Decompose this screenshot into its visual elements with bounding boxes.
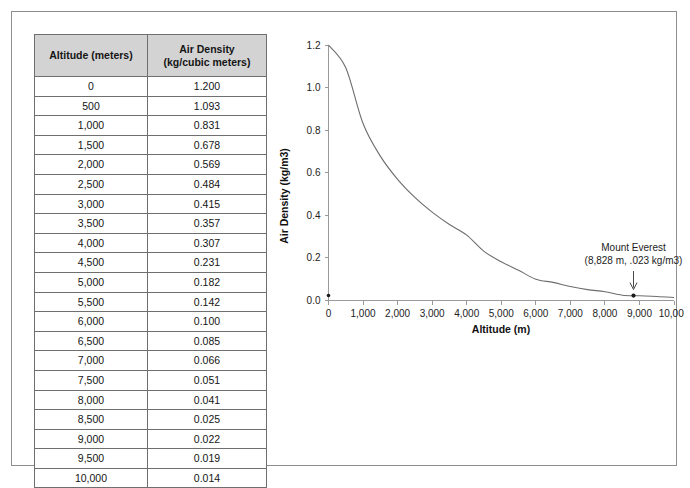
y-tick-label: 0.6 [307,167,321,178]
cell-altitude: 6,000 [35,312,148,332]
table-row: 7,5000.051 [35,370,267,390]
cell-altitude: 0 [35,77,148,97]
cell-altitude: 4,000 [35,233,148,253]
cell-air-density: 0.678 [148,135,267,155]
x-tick-label: 6,000 [523,308,548,319]
figure-frame: Altitude (meters) Air Density (kg/cubic … [11,11,677,466]
mount-everest-annotation: Mount Everest (8,828 m, .023 kg/m3) [585,242,683,298]
table-row: 6,0000.100 [35,312,267,332]
y-tick-label: 1.0 [307,82,321,93]
cell-air-density: 0.484 [148,174,267,194]
x-tick-label: 4,000 [454,308,479,319]
annotation-title: Mount Everest [601,242,666,253]
cell-altitude: 5,500 [35,292,148,312]
table-row: 10,0000.014 [35,468,267,488]
annotation-values: (8,828 m, .023 kg/m3) [585,255,683,266]
origin-marker-dot [327,294,331,298]
cell-altitude: 8,500 [35,410,148,430]
cell-air-density: 0.357 [148,214,267,234]
cell-air-density: 0.182 [148,272,267,292]
x-tick-label: 5,000 [489,308,514,319]
cell-altitude: 7,000 [35,351,148,371]
table-row: 5,5000.142 [35,292,267,312]
x-tick-label: 3,000 [420,308,445,319]
cell-air-density: 0.051 [148,370,267,390]
table-row: 4,0000.307 [35,233,267,253]
cell-altitude: 4,500 [35,253,148,273]
cell-air-density: 0.100 [148,312,267,332]
cell-altitude: 500 [35,96,148,116]
y-tick-label: 0.0 [307,295,321,306]
table-header: Altitude (meters) Air Density (kg/cubic … [35,35,267,77]
cell-air-density: 0.041 [148,390,267,410]
x-tick-label: 8,000 [592,308,617,319]
table-row: 5001.093 [35,96,267,116]
table-header-row: Altitude (meters) Air Density (kg/cubic … [35,35,267,77]
x-tick-label: 1,000 [351,308,376,319]
x-tick-label: 9,000 [627,308,652,319]
y-tick-label: 0.8 [307,125,321,136]
column-header-altitude: Altitude (meters) [35,35,148,77]
table-row: 9,5000.019 [35,449,267,469]
cell-air-density: 0.025 [148,410,267,430]
x-tick-label: 10,000 [659,308,684,319]
table-row: 8,5000.025 [35,410,267,430]
cell-air-density: 0.569 [148,155,267,175]
y-tick-label: 0.2 [307,252,321,263]
column-header-air-density: Air Density (kg/cubic meters) [148,35,267,77]
cell-air-density: 0.019 [148,449,267,469]
cell-altitude: 6,500 [35,331,148,351]
air-density-table: Altitude (meters) Air Density (kg/cubic … [34,34,267,488]
table-row: 5,0000.182 [35,272,267,292]
column-header-air-density-line2: (kg/cubic meters) [151,56,263,69]
cell-altitude: 2,500 [35,174,148,194]
cell-air-density: 0.014 [148,468,267,488]
everest-data-point [631,294,635,298]
x-axis-title: Altitude (m) [472,323,530,335]
cell-altitude: 5,000 [35,272,148,292]
x-tick-label: 7,000 [558,308,583,319]
table-row: 01.200 [35,77,267,97]
table-row: 8,0000.041 [35,390,267,410]
air-density-chart: Air Density (kg/m3) 0.00.20.40.60.81.01.… [274,28,684,358]
cell-altitude: 1,000 [35,116,148,136]
cell-air-density: 0.142 [148,292,267,312]
x-axis-ticks: 01,0002,0003,0004,0005,0006,0007,0008,00… [326,301,684,319]
cell-altitude: 3,000 [35,194,148,214]
table-row: 9,0000.022 [35,429,267,449]
cell-altitude: 1,500 [35,135,148,155]
table-row: 3,0000.415 [35,194,267,214]
table-row: 1,0000.831 [35,116,267,136]
y-tick-label: 1.2 [307,40,321,51]
x-tick-label: 2,000 [385,308,410,319]
table-row: 6,5000.085 [35,331,267,351]
x-tick-label: 0 [326,308,332,319]
cell-altitude: 7,500 [35,370,148,390]
cell-altitude: 2,000 [35,155,148,175]
cell-air-density: 0.022 [148,429,267,449]
cell-air-density: 0.831 [148,116,267,136]
cell-altitude: 9,500 [35,449,148,469]
table-body: 01.2005001.0931,0000.8311,5000.6782,0000… [35,77,267,488]
cell-air-density: 0.415 [148,194,267,214]
air-density-table-container: Altitude (meters) Air Density (kg/cubic … [34,34,266,488]
column-header-air-density-line1: Air Density [151,43,263,56]
y-tick-label: 0.4 [307,210,321,221]
cell-air-density: 0.085 [148,331,267,351]
y-axis-ticks: 0.00.20.40.60.81.01.2 [307,40,329,307]
table-row: 1,5000.678 [35,135,267,155]
table-row: 2,5000.484 [35,174,267,194]
table-row: 4,5000.231 [35,253,267,273]
cell-air-density: 0.231 [148,253,267,273]
table-row: 2,0000.569 [35,155,267,175]
cell-air-density: 1.093 [148,96,267,116]
cell-air-density: 0.066 [148,351,267,371]
cell-altitude: 3,500 [35,214,148,234]
cell-air-density: 0.307 [148,233,267,253]
cell-air-density: 1.200 [148,77,267,97]
y-axis-title: Air Density (kg/m3) [278,148,290,244]
table-row: 7,0000.066 [35,351,267,371]
cell-altitude: 10,000 [35,468,148,488]
table-row: 3,5000.357 [35,214,267,234]
